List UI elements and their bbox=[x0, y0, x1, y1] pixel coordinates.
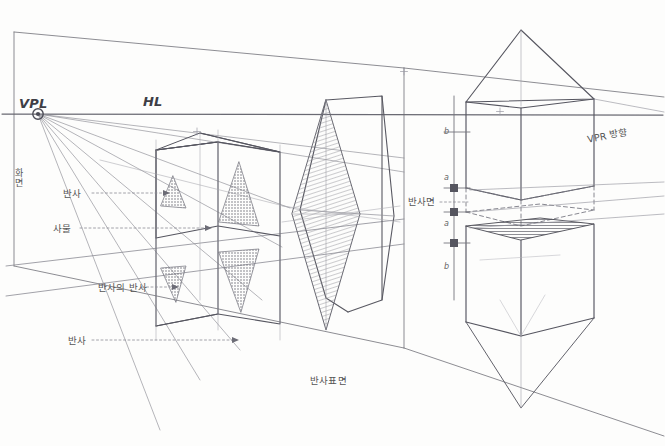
right-pyramid-roof bbox=[466, 30, 594, 106]
vpl-convergence-rays bbox=[38, 114, 404, 430]
label-reflection-lower: 반사 bbox=[68, 333, 86, 347]
triangle-object-upper bbox=[161, 162, 259, 226]
label-object: 사물 bbox=[53, 221, 71, 235]
tick-label-a-lower: a bbox=[444, 219, 449, 228]
horizon-line bbox=[2, 114, 663, 115]
right-shaded-mirror-face bbox=[466, 218, 594, 240]
label-reflection-plane: 반사면 bbox=[408, 194, 436, 208]
right-lower-pyramid bbox=[466, 318, 594, 408]
vpr-convergence-rays bbox=[470, 99, 664, 228]
tick-label-b-lower: b bbox=[444, 262, 449, 271]
tick-label-b-upper: b bbox=[444, 127, 449, 136]
right-figure-faint-interior bbox=[480, 255, 560, 336]
label-vpl: VPL bbox=[19, 96, 47, 111]
label-hl: HL bbox=[143, 94, 163, 109]
label-reflection-upper: 반사 bbox=[63, 186, 81, 200]
triangle-reflection-lower bbox=[161, 249, 259, 312]
label-leader-lines bbox=[80, 193, 468, 340]
right-lower-cube bbox=[466, 224, 594, 336]
label-reflective-surface: 반사표면 bbox=[310, 373, 347, 387]
construction-crosses bbox=[194, 68, 504, 135]
label-reflection-of-reflection: 반사의 반사 bbox=[98, 280, 147, 294]
label-picture-plane: 화면 bbox=[12, 168, 25, 188]
tick-label-a-upper: a bbox=[444, 173, 449, 182]
drawing-sheet: VPL HL 화면 반사 사물 반사의 반사 반사 반사표면 반사면 VPR 방… bbox=[0, 0, 665, 446]
